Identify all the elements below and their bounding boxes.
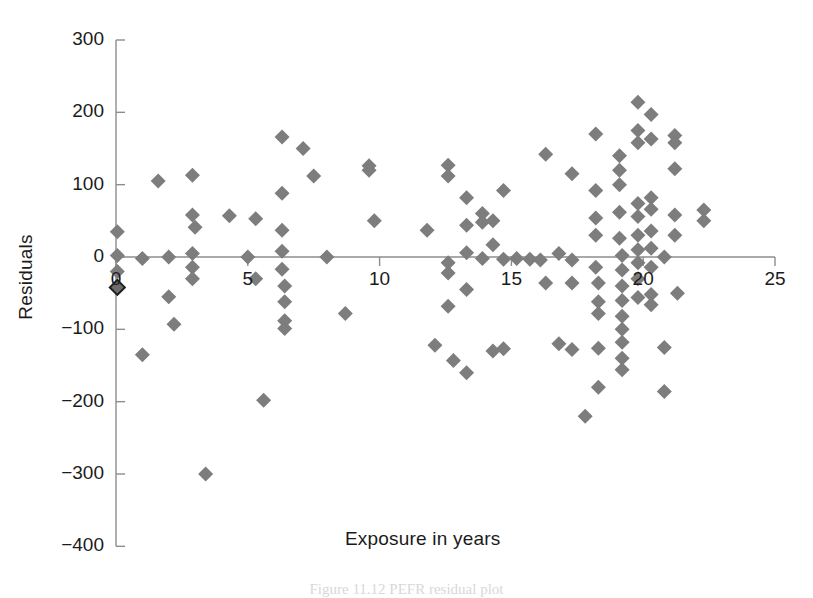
scatter-point bbox=[222, 208, 237, 223]
scatter-point bbox=[185, 208, 200, 223]
scatter-point bbox=[588, 260, 603, 275]
scatter-point bbox=[588, 228, 603, 243]
scatter-point bbox=[277, 278, 292, 293]
scatter-point bbox=[612, 205, 627, 220]
scatter-point bbox=[459, 190, 474, 205]
x-tick-label: 10 bbox=[350, 268, 410, 290]
scatter-point bbox=[446, 353, 461, 368]
scatter-point bbox=[615, 293, 630, 308]
scatter-point bbox=[615, 309, 630, 324]
scatter-point bbox=[188, 220, 203, 235]
x-tick-label: 0 bbox=[86, 268, 146, 290]
scatter-point bbox=[551, 246, 566, 261]
x-tick-label: 25 bbox=[745, 268, 805, 290]
scatter-point bbox=[612, 177, 627, 192]
scatter-point bbox=[696, 213, 711, 228]
scatter-point bbox=[644, 241, 659, 256]
scatter-point bbox=[135, 251, 150, 266]
scatter-point bbox=[427, 338, 442, 353]
scatter-point bbox=[185, 271, 200, 286]
scatter-point bbox=[277, 294, 292, 309]
scatter-point bbox=[615, 362, 630, 377]
scatter-point bbox=[185, 168, 200, 183]
scatter-point bbox=[612, 163, 627, 178]
scatter-point bbox=[277, 321, 292, 336]
scatter-point bbox=[588, 210, 603, 225]
scatter-point bbox=[591, 306, 606, 321]
scatter-point bbox=[275, 223, 290, 238]
scatter-point bbox=[459, 218, 474, 233]
scatter-point bbox=[485, 237, 500, 252]
scatter-point bbox=[551, 336, 566, 351]
scatter-point bbox=[644, 297, 659, 312]
y-axis-label: Residuals bbox=[15, 217, 37, 337]
scatter-point bbox=[630, 209, 645, 224]
scatter-point bbox=[612, 231, 627, 246]
y-tick-label: 300 bbox=[8, 28, 104, 50]
y-tick-label: −300 bbox=[8, 462, 104, 484]
scatter-point bbox=[496, 252, 511, 267]
scatter-point bbox=[657, 340, 672, 355]
scatter-point bbox=[198, 467, 213, 482]
scatter-point bbox=[667, 228, 682, 243]
scatter-point bbox=[475, 251, 490, 266]
x-tick-label: 15 bbox=[481, 268, 541, 290]
scatter-point bbox=[441, 168, 456, 183]
scatter-point bbox=[644, 202, 659, 217]
scatter-point bbox=[591, 341, 606, 356]
scatter-point bbox=[296, 141, 311, 156]
scatter-point bbox=[166, 317, 181, 332]
scatter-point bbox=[496, 341, 511, 356]
scatter-point bbox=[459, 282, 474, 297]
scatter-point bbox=[459, 245, 474, 260]
scatter-point bbox=[565, 276, 580, 291]
y-tick-label: 200 bbox=[8, 100, 104, 122]
scatter-point bbox=[591, 276, 606, 291]
scatter-point bbox=[657, 384, 672, 399]
scatter-point bbox=[644, 107, 659, 122]
scatter-point bbox=[496, 183, 511, 198]
scatter-point bbox=[565, 342, 580, 357]
scatter-point bbox=[151, 174, 166, 189]
scatter-point bbox=[667, 208, 682, 223]
scatter-point bbox=[565, 166, 580, 181]
scatter-point bbox=[630, 95, 645, 110]
x-axis-label: Exposure in years bbox=[345, 528, 500, 550]
scatter-point bbox=[588, 127, 603, 142]
scatter-point bbox=[135, 347, 150, 362]
scatter-point bbox=[630, 242, 645, 257]
scatter-point bbox=[161, 250, 176, 265]
x-tick-label: 5 bbox=[218, 268, 278, 290]
scatter-point bbox=[578, 409, 593, 424]
scatter-point bbox=[459, 365, 474, 380]
scatter-point bbox=[441, 265, 456, 280]
scatter-point bbox=[565, 252, 580, 267]
scatter-point bbox=[630, 196, 645, 211]
scatter-point bbox=[256, 393, 271, 408]
scatter-point bbox=[240, 250, 255, 265]
scatter-point bbox=[533, 252, 548, 267]
scatter-point bbox=[615, 248, 630, 263]
scatter-point bbox=[306, 168, 321, 183]
scatter-point bbox=[185, 246, 200, 261]
scatter-point bbox=[110, 224, 125, 239]
figure-caption: Figure 11.12 PEFR residual plot bbox=[0, 581, 813, 598]
scatter-point bbox=[630, 290, 645, 305]
scatter-point bbox=[630, 135, 645, 150]
scatter-point bbox=[110, 248, 125, 263]
scatter-point bbox=[420, 223, 435, 238]
y-tick-label: 100 bbox=[8, 173, 104, 195]
y-tick-label: −400 bbox=[8, 534, 104, 556]
scatter-point bbox=[667, 161, 682, 176]
scatter-point bbox=[615, 322, 630, 337]
x-tick-label: 20 bbox=[613, 268, 673, 290]
scatter-point bbox=[630, 228, 645, 243]
scatter-point bbox=[615, 335, 630, 350]
scatter-point bbox=[612, 148, 627, 163]
scatter-point bbox=[338, 306, 353, 321]
scatter-point bbox=[657, 250, 672, 265]
scatter-point bbox=[248, 211, 263, 226]
scatter-point bbox=[441, 299, 456, 314]
